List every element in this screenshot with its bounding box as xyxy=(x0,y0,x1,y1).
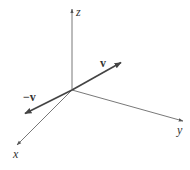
x-axis-label: x xyxy=(12,147,19,161)
vector-v xyxy=(72,63,121,91)
y-axis xyxy=(72,90,183,121)
z-axis-label: z xyxy=(75,5,81,19)
vector-neg-v-label: −v xyxy=(23,90,36,104)
vectors xyxy=(25,63,121,114)
axes xyxy=(17,9,183,145)
vector-3d-diagram: z y x v −v xyxy=(0,0,190,170)
labels: z y x v −v xyxy=(12,5,183,161)
vector-v-label: v xyxy=(100,56,106,70)
y-axis-label: y xyxy=(176,123,183,137)
